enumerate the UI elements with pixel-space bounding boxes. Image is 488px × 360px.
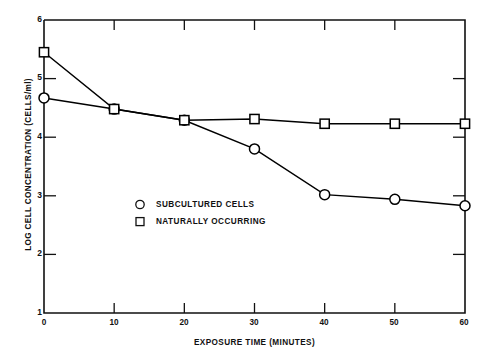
series-naturally-occurring [39,48,469,129]
data-point [39,93,49,103]
square-marker-icon [133,216,149,227]
plot-area [0,0,488,360]
data-point [180,116,189,125]
data-point [390,119,399,128]
data-point [460,201,470,211]
circle-marker-icon [133,199,149,210]
series-line [44,52,465,123]
chart-legend: SUBCULTURED CELLS NATURALLY OCCURRING [133,197,266,231]
data-point [250,144,260,154]
data-point [390,194,400,204]
data-point [460,119,469,128]
legend-item-naturally-occurring: NATURALLY OCCURRING [133,214,266,229]
data-point [250,114,259,123]
data-point [320,119,329,128]
data-point [110,104,119,113]
axis-frame [44,20,465,313]
legend-label-subcultured-cells: SUBCULTURED CELLS [156,200,254,209]
series-subcultured-cells [39,93,470,211]
plot-frame [44,20,465,313]
legend-item-subcultured-cells: SUBCULTURED CELLS [133,197,266,212]
data-point [39,48,48,57]
chart-figure: LOG CELL CONCENTRATION (CELLS/ml) 6 5 4 … [0,0,488,360]
series-layer [39,48,470,211]
legend-label-naturally-occurring: NATURALLY OCCURRING [156,217,266,226]
data-point [320,190,330,200]
axis-ticks [44,20,465,313]
